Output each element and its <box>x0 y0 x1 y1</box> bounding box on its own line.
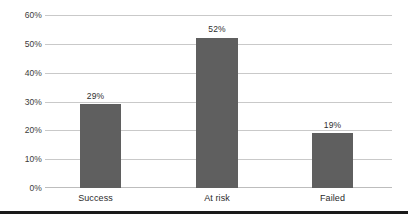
bottom-divider <box>0 211 408 214</box>
y-axis-tick-label-10: 10% <box>2 155 42 164</box>
x-axis-category-at-risk: At risk <box>181 194 253 203</box>
bar-success[interactable] <box>80 104 121 188</box>
y-axis-tick-label-20: 20% <box>2 126 42 135</box>
bar-at-risk[interactable] <box>196 38 238 188</box>
x-axis-category-failed: Failed <box>297 194 368 203</box>
plot-area <box>45 15 392 188</box>
x-axis-category-success: Success <box>60 194 131 203</box>
bar-chart-figure: 60% 50% 40% 30% 20% 10% 0% 29% 52% 19% S… <box>0 0 408 221</box>
y-axis-tick-label-60: 60% <box>2 11 42 20</box>
y-axis-tick-label-50: 50% <box>2 40 42 49</box>
bar-failed[interactable] <box>312 133 353 188</box>
bar-value-success: 29% <box>60 92 131 101</box>
y-axis-tick-label-0: 0% <box>2 184 42 193</box>
gridline-60 <box>45 15 392 16</box>
bar-value-failed: 19% <box>297 121 368 130</box>
y-axis-tick-label-40: 40% <box>2 69 42 78</box>
bar-value-at-risk: 52% <box>181 25 253 34</box>
y-axis-tick-label-30: 30% <box>2 98 42 107</box>
